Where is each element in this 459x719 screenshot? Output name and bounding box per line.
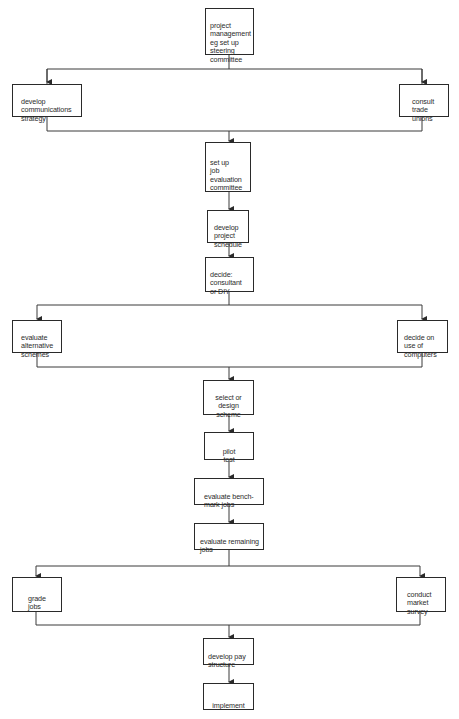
node-consult-trade-unions: consult trade unions [399, 84, 449, 117]
node-develop-communications-strategy: develop communications strategy [12, 84, 82, 117]
node-label: grade jobs [28, 595, 57, 612]
node-label: conduct market survey [407, 591, 441, 617]
node-label: decide: consultant or DIY [210, 271, 249, 297]
node-pilot-test: pilot test [204, 432, 254, 460]
node-select-or-design-scheme: select or design scheme [203, 380, 254, 415]
node-decide-on-use-of-computers: decide on use of computers [397, 320, 448, 353]
node-label: develop project schedule [214, 224, 244, 250]
node-label: project management eg set up steering co… [210, 22, 249, 65]
node-develop-pay-structure: develop pay structure [203, 638, 254, 665]
node-label: consult trade unions [412, 98, 444, 124]
node-label: develop pay structure [208, 653, 249, 670]
node-project-management: project management eg set up steering co… [205, 8, 254, 55]
flowchart-diagram: project management eg set up steering co… [0, 0, 459, 719]
node-label: implement [208, 702, 249, 711]
node-set-up-job-evaluation-committee: set up job evaluation committee [205, 142, 251, 192]
node-grade-jobs: grade jobs [12, 577, 62, 612]
node-label: select or design scheme [208, 394, 249, 420]
node-decide-consultant-or-diy: decide: consultant or DIY [205, 257, 254, 292]
node-label: evaluate bench- mark jobs [204, 493, 259, 510]
node-label: pilot test [209, 448, 249, 465]
node-evaluate-alternative-schemes: evaluate alternative schemes [12, 320, 62, 353]
node-label: set up job evaluation committee [210, 159, 246, 193]
node-label: evaluate alternative schemes [21, 334, 57, 360]
node-evaluate-remaining-jobs: evaluate remaining jobs [194, 523, 264, 550]
node-label: evaluate remaining jobs [200, 538, 259, 555]
node-implement: implement [203, 683, 254, 710]
node-label: develop communications strategy [21, 98, 77, 124]
node-evaluate-benchmark-jobs: evaluate bench- mark jobs [194, 478, 264, 505]
node-label: decide on use of computers [404, 334, 443, 360]
node-develop-project-schedule: develop project schedule [207, 210, 249, 243]
node-conduct-market-survey: conduct market survey [396, 577, 446, 612]
